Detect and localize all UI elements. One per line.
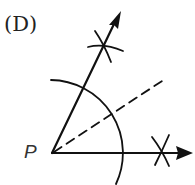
upper-arrowhead-icon: [109, 11, 121, 29]
horizontal-arrowhead-icon: [176, 146, 193, 160]
angle-bisector-diagram: [0, 0, 195, 185]
